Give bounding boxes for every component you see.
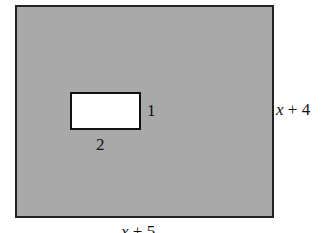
outer-width-label: x + 5 xyxy=(121,223,155,233)
inner-rectangle xyxy=(70,92,141,130)
inner-height-label: 1 xyxy=(147,102,156,119)
variable-x: x xyxy=(121,222,129,233)
diagram: 1 2 x + 4 x + 5 xyxy=(0,0,327,233)
variable-x: x xyxy=(276,100,284,119)
outer-height-label: x + 4 xyxy=(276,101,310,118)
inner-width-label: 2 xyxy=(96,136,105,153)
width-expression-rest: + 5 xyxy=(129,222,156,233)
height-expression-rest: + 4 xyxy=(284,100,311,119)
outer-rectangle xyxy=(15,5,274,218)
